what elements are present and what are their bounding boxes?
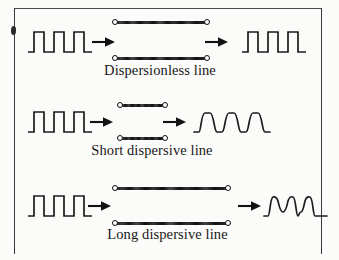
caption-long-dispersive: Long dispersive line [95,226,240,243]
conductor-bar [115,57,207,60]
transmission-line-bottom-row1 [112,55,210,62]
input-arrow-row1 [92,36,116,48]
transmission-line-top-row3 [112,185,231,192]
output-waveform-square-row1 [240,26,308,56]
terminal-right-icon [204,55,210,61]
transmission-line-bottom-row2 [117,135,168,142]
terminal-left-icon [117,102,123,108]
terminal-left-icon [117,135,123,141]
input-waveform-square-row3 [26,190,94,220]
output-waveform-rounded-row2 [192,106,272,136]
conductor-bar [120,137,165,140]
input-arrow-row2 [90,116,114,128]
output-arrow-row1 [205,36,229,48]
input-waveform-square-row2 [26,106,94,136]
output-arrow-row2 [163,116,187,128]
input-waveform-square-row1 [26,26,94,56]
transmission-line-top-row1 [112,19,210,26]
terminal-right-icon [204,19,210,25]
terminal-left-icon [112,19,118,25]
terminal-right-icon [162,102,168,108]
output-arrow-row3 [238,200,262,212]
scan-edge-artifact [11,26,16,35]
caption-dispersionless: Dispersionless line [95,62,225,79]
caption-short-dispersive: Short dispersive line [78,142,226,159]
figure-canvas: Dispersionless line Short dispersiv [0,0,339,260]
terminal-right-icon [162,135,168,141]
input-arrow-row3 [88,200,112,212]
transmission-line-top-row2 [117,102,168,109]
conductor-bar [115,222,228,225]
terminal-left-icon [112,55,118,61]
output-waveform-distorted-row3 [263,190,329,220]
conductor-bar [115,21,207,24]
conductor-bar [120,104,165,107]
terminal-left-icon [112,185,118,191]
terminal-right-icon [225,185,231,191]
conductor-bar [115,187,228,190]
